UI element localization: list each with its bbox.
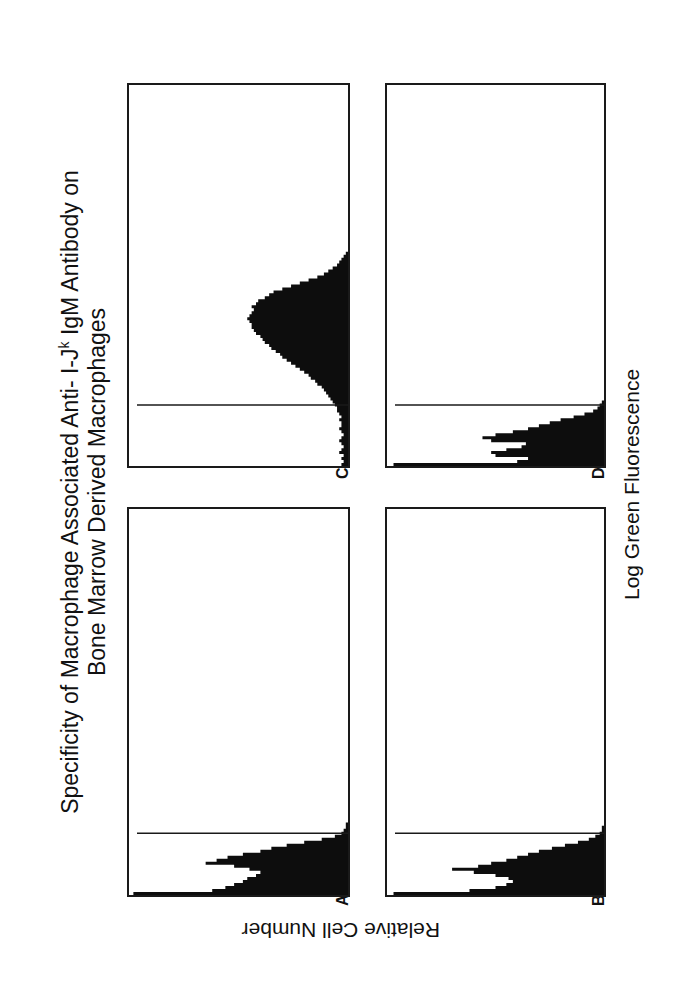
histogram-bars xyxy=(129,509,348,895)
histogram-panel-d xyxy=(385,83,606,468)
figure: Specificity of Macrophage Associated Ant… xyxy=(0,0,675,984)
histogram-panel-b xyxy=(385,507,606,897)
histogram-panel-a xyxy=(127,507,350,897)
histogram-bars xyxy=(129,85,348,466)
histogram-area xyxy=(247,252,348,466)
histogram-bars xyxy=(387,85,604,466)
figure-title-line1: Specificity of Macrophage Associated Ant… xyxy=(56,0,84,984)
panel-label-c: C xyxy=(334,467,352,479)
panel-label-d: D xyxy=(590,467,608,479)
histogram-area xyxy=(394,401,604,466)
histogram-bars xyxy=(387,509,604,895)
x-axis-label: Log Green Fluorescence xyxy=(620,369,644,600)
histogram-panel-c xyxy=(127,83,350,468)
histogram-area xyxy=(394,826,604,895)
figure-title-line2: Bone Marrow Derived Macrophages xyxy=(84,0,111,984)
y-axis-label: Relative Cell Number xyxy=(242,918,440,942)
